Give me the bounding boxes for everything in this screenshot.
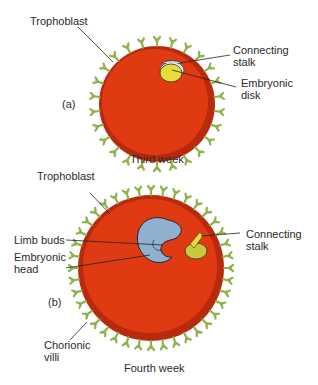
label-chorionic-villi: Chorionic villi <box>44 339 90 363</box>
caption-fourth-week: Fourth week <box>124 362 185 374</box>
label-embryonic-disk-a: Embryonic disk <box>241 77 293 101</box>
label-trophoblast-a: Trophoblast <box>30 15 88 27</box>
label-trophoblast-b: Trophoblast <box>37 170 95 182</box>
label-connecting-stalk-b: Connecting stalk <box>246 228 302 252</box>
label-limb-buds: Limb buds <box>14 234 65 246</box>
yolk-sac-a <box>160 64 182 82</box>
panel-label-b: (b) <box>48 296 61 308</box>
label-connecting-stalk-a: Connecting stalk <box>233 44 289 68</box>
panel-label-a: (a) <box>62 98 75 110</box>
label-embryonic-head: Embryonic head <box>14 251 66 275</box>
chorion-body-a <box>102 49 208 155</box>
caption-third-week: Third week <box>130 153 184 165</box>
